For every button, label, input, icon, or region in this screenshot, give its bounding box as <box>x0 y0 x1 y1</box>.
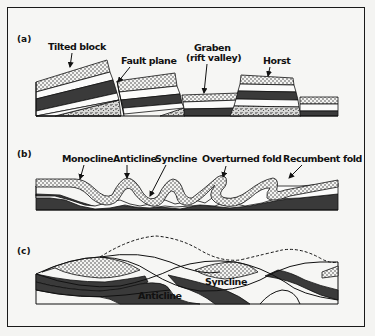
arrow-monocline <box>80 165 84 179</box>
arrow-overturned-fold <box>223 166 226 177</box>
label-recumbent-fold: Recumbent fold <box>283 153 362 164</box>
label-horst: Horst <box>263 55 291 66</box>
label-anticline: Anticline <box>113 153 157 164</box>
right-block <box>300 97 338 116</box>
label-graben-subtitle: (rift valley) <box>186 52 241 63</box>
layer-dotted-right <box>322 266 338 278</box>
label-syncline-c: Syncline <box>205 276 247 287</box>
label-overturned-fold: Overturned fold <box>202 153 281 164</box>
panel-label-b: (b) <box>17 149 32 159</box>
label-monocline: Monocline <box>62 153 113 164</box>
geology-diagram: (a) <box>0 0 375 336</box>
label-syncline: Syncline <box>155 153 197 164</box>
label-tilted-block: Tilted block <box>48 41 107 52</box>
tilted-block <box>36 60 121 116</box>
fault-block <box>117 73 185 116</box>
panel-c: (c) Anticline Syncline <box>17 236 338 304</box>
panel-a: (a) <box>17 34 338 116</box>
panel-label-a: (a) <box>17 34 31 44</box>
arrow-horst <box>268 67 270 76</box>
arrow-graben <box>204 64 207 93</box>
panel-label-c: (c) <box>17 246 31 256</box>
arrow-tilted-block <box>70 53 72 67</box>
horst <box>230 75 301 116</box>
arrow-recumbent-fold <box>289 165 302 178</box>
label-anticline-c: Anticline <box>138 290 182 301</box>
label-fault-plane: Fault plane <box>121 55 177 66</box>
panel-b: (b) Monocline Anticline Syncline Overtur… <box>17 149 362 210</box>
